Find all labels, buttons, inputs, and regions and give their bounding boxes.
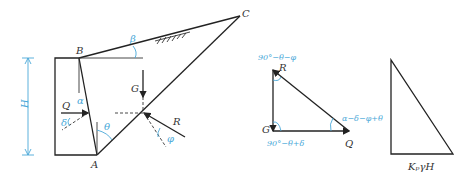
force-q-label: Q	[62, 100, 70, 111]
triangle-r-label: R	[278, 62, 287, 73]
triangle-g-label: G	[262, 124, 270, 135]
angle-top-label: 90°−θ−φ	[258, 53, 296, 62]
pressure-base-label: KₚγH	[407, 161, 434, 172]
point-a-label: A	[90, 159, 98, 170]
force-r-label: R	[172, 116, 181, 127]
angle-right-label: α−δ−φ+θ	[342, 114, 383, 123]
sliding-wedge	[79, 16, 240, 155]
height-label: H	[19, 99, 30, 109]
passive-earth-pressure-figure: H β α θ Q δ	[0, 0, 470, 182]
force-r: R φ	[144, 113, 185, 147]
height-dimension: H	[19, 58, 34, 155]
beta-angle-label: β	[129, 33, 136, 44]
triangle-q-label: Q	[345, 138, 353, 149]
force-triangle: R G Q 90°−θ−φ α−δ−φ+θ 90°−θ+δ	[258, 53, 383, 149]
point-c-label: C	[242, 8, 250, 19]
alpha-angle-label: α	[77, 95, 84, 106]
force-q: Q δ	[61, 100, 88, 130]
theta-angle-label: θ	[104, 121, 110, 132]
force-g-label: G	[131, 83, 139, 94]
point-b-label: B	[75, 45, 83, 56]
force-g: G	[115, 70, 143, 113]
angle-bottom-label: 90°−θ+δ	[267, 139, 304, 148]
figure-svg: H β α θ Q δ	[0, 0, 470, 182]
pressure-distribution: KₚγH	[391, 60, 453, 172]
phi-angle-label: φ	[167, 133, 174, 144]
delta-angle-label: δ	[61, 117, 67, 128]
